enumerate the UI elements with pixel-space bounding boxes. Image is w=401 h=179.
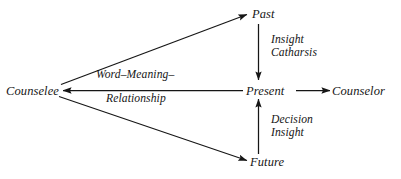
edge-label-future-to-present: Decision Insight xyxy=(271,113,313,139)
node-future: Future xyxy=(250,155,284,169)
edge-label-past-to-present: Insight Catharsis xyxy=(271,33,317,59)
edge-label-line-word-meaning: Word–Meaning– xyxy=(96,68,174,81)
edge-label-line-relationship: Relationship xyxy=(106,92,174,105)
node-counselee: Counselee xyxy=(6,84,59,98)
node-present: Present xyxy=(246,84,284,98)
edge-label-line-insight-2: Insight xyxy=(271,126,313,139)
edge-label-line-insight: Insight xyxy=(271,33,317,46)
edge-label-line-catharsis: Catharsis xyxy=(271,46,317,59)
node-counselor: Counselor xyxy=(332,84,385,98)
edge-label-line-decision: Decision xyxy=(271,113,313,126)
diagram-canvas: Counselee Past Present Counselor Future … xyxy=(0,0,401,179)
edge-counselee-to-future xyxy=(59,97,247,161)
edge-label-present-to-counselee: Word–Meaning– Relationship xyxy=(96,68,174,105)
node-past: Past xyxy=(252,7,275,21)
